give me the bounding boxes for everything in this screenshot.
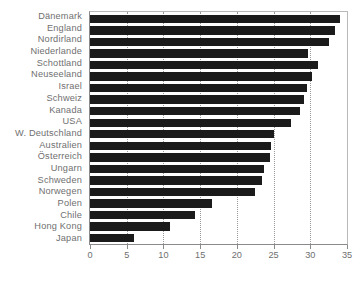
category-label: Kanada <box>0 105 85 117</box>
x-tick-label: 15 <box>195 250 205 260</box>
category-label: Dänemark <box>0 11 85 23</box>
bar <box>90 222 170 230</box>
bar <box>90 142 271 150</box>
category-label: Niederlande <box>0 46 85 58</box>
category-label: Neuseeland <box>0 69 85 81</box>
category-label: Nordirland <box>0 34 85 46</box>
x-tick-label: 20 <box>232 250 242 260</box>
category-label: Schottland <box>0 58 85 70</box>
category-label: Schweiz <box>0 93 85 105</box>
bar <box>90 153 270 161</box>
bar <box>90 107 300 115</box>
x-tick-label: 10 <box>158 250 168 260</box>
bar <box>90 38 329 46</box>
category-label: USA <box>0 116 85 128</box>
bar-row <box>90 232 347 244</box>
category-label: Österreich <box>0 151 85 163</box>
x-tick <box>347 245 348 249</box>
bar <box>90 176 262 184</box>
bar-chart: DänemarkEnglandNordirlandNiederlandeScho… <box>0 0 359 284</box>
bar-row <box>90 209 347 221</box>
bar-row <box>90 48 347 60</box>
bar <box>90 234 134 242</box>
bar-row <box>90 221 347 233</box>
bar-row <box>90 36 347 48</box>
x-tick <box>310 245 311 249</box>
bar <box>90 199 212 207</box>
bar-row <box>90 128 347 140</box>
category-label: Chile <box>0 210 85 222</box>
bar-row <box>90 105 347 117</box>
category-label: England <box>0 23 85 35</box>
x-tick-label: 25 <box>268 250 278 260</box>
category-label: Norwegen <box>0 186 85 198</box>
x-tick-label: 5 <box>124 250 129 260</box>
x-tick <box>200 245 201 249</box>
plot-area <box>89 11 348 245</box>
bar <box>90 61 318 69</box>
bar-row <box>90 152 347 164</box>
bar-row <box>90 140 347 152</box>
category-label: Schweden <box>0 175 85 187</box>
bar <box>90 165 264 173</box>
bar <box>90 130 274 138</box>
bar-row <box>90 163 347 175</box>
category-label: W. Deutschland <box>0 128 85 140</box>
bar-row <box>90 13 347 25</box>
category-label: Polen <box>0 198 85 210</box>
bar-row <box>90 59 347 71</box>
category-label: Israel <box>0 81 85 93</box>
category-axis-labels: DänemarkEnglandNordirlandNiederlandeScho… <box>0 11 85 245</box>
bar-row <box>90 82 347 94</box>
category-label: Hong Kong <box>0 221 85 233</box>
x-tick <box>237 245 238 249</box>
bar <box>90 15 340 23</box>
x-tick <box>127 245 128 249</box>
bar-row <box>90 71 347 83</box>
x-tick-label: 35 <box>342 250 352 260</box>
x-tick <box>163 245 164 249</box>
category-label: Australien <box>0 140 85 152</box>
bar <box>90 49 308 57</box>
x-tick <box>90 245 91 249</box>
x-tick <box>274 245 275 249</box>
bar-row <box>90 117 347 129</box>
x-axis: 05101520253035 <box>89 245 348 265</box>
bar <box>90 72 312 80</box>
bar <box>90 84 307 92</box>
x-tick-label: 30 <box>305 250 315 260</box>
bar <box>90 211 195 219</box>
gridline <box>347 12 348 244</box>
bar-row <box>90 198 347 210</box>
x-tick-label: 0 <box>87 250 92 260</box>
bar <box>90 95 304 103</box>
bar-row <box>90 186 347 198</box>
bar-series <box>90 12 347 244</box>
bar-row <box>90 94 347 106</box>
bar-row <box>90 25 347 37</box>
bar <box>90 119 291 127</box>
bar <box>90 188 255 196</box>
bar-row <box>90 175 347 187</box>
category-label: Ungarn <box>0 163 85 175</box>
category-label: Japan <box>0 233 85 245</box>
bar <box>90 26 335 34</box>
